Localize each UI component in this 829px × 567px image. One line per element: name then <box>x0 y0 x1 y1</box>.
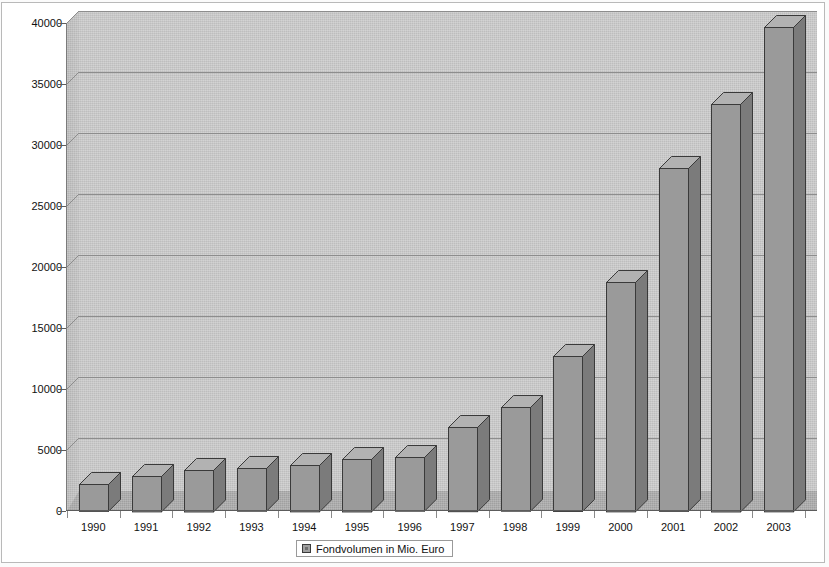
bar-2002[interactable] <box>711 92 754 511</box>
gridline <box>79 194 817 195</box>
y-axis-tick-mark <box>58 145 66 146</box>
legend-label: Fondvolumen in Mio. Euro <box>316 543 444 555</box>
bar-1995[interactable] <box>342 447 385 511</box>
x-axis-tick-label: 2000 <box>594 521 647 533</box>
x-axis-tick-mark <box>752 511 753 518</box>
x-axis-tick-label: 1997 <box>436 521 489 533</box>
x-axis-tick-mark <box>489 511 490 518</box>
x-axis-tick-label: 1991 <box>120 521 173 533</box>
gridline <box>79 11 817 12</box>
bar-1997[interactable] <box>448 415 491 511</box>
x-axis-tick-label: 1998 <box>489 521 542 533</box>
x-axis-tick-mark <box>700 511 701 518</box>
x-axis-tick-mark <box>67 511 68 518</box>
x-axis-tick-mark <box>594 511 595 518</box>
gridline <box>79 133 817 134</box>
y-axis-tick-mark <box>58 389 66 390</box>
gridline <box>79 255 817 256</box>
y-axis-tick-mark <box>58 450 66 451</box>
x-axis-tick-mark <box>278 511 279 518</box>
y-axis-line <box>66 23 67 511</box>
x-axis-tick-label: 2002 <box>700 521 753 533</box>
y-axis-tick-mark <box>58 267 66 268</box>
x-axis-tick-label: 1995 <box>331 521 384 533</box>
gridline <box>79 72 817 73</box>
y-axis-tick-mark <box>58 23 66 24</box>
x-axis-tick-mark <box>541 511 542 518</box>
x-axis-tick-mark <box>647 511 648 518</box>
bar-2003[interactable] <box>764 15 807 511</box>
bar-1999[interactable] <box>553 344 596 511</box>
x-axis-tick-mark <box>383 511 384 518</box>
bar-1996[interactable] <box>395 445 438 511</box>
bar-1994[interactable] <box>290 453 333 511</box>
x-axis-tick-label: 1999 <box>541 521 594 533</box>
bar-1993[interactable] <box>237 456 280 511</box>
y-axis-tick-mark <box>58 328 66 329</box>
x-axis-tick-label: 1996 <box>383 521 436 533</box>
x-axis-tick-label: 1992 <box>172 521 225 533</box>
legend-swatch-icon <box>302 544 311 553</box>
gridline <box>79 377 817 378</box>
x-axis-tick-label: 2003 <box>752 521 805 533</box>
y-axis-tick-mark <box>58 84 66 85</box>
x-axis-tick-label: 1990 <box>67 521 120 533</box>
y-axis-tick-mark <box>58 206 66 207</box>
x-axis-tick-label: 1993 <box>225 521 278 533</box>
plot-side-wall <box>67 11 79 511</box>
bar-1998[interactable] <box>501 395 544 511</box>
x-axis-tick-label: 1994 <box>278 521 331 533</box>
chart-root: 0500010000150002000025000300003500040000… <box>0 0 829 567</box>
x-axis-line <box>66 510 817 511</box>
y-axis: 0500010000150002000025000300003500040000 <box>0 0 62 567</box>
bar-2000[interactable] <box>606 270 649 511</box>
bar-1992[interactable] <box>184 458 227 511</box>
bar-1991[interactable] <box>132 464 175 511</box>
x-axis-tick-mark <box>805 511 806 518</box>
legend: Fondvolumen in Mio. Euro <box>296 540 453 557</box>
x-axis-tick-mark <box>331 511 332 518</box>
bar-2001[interactable] <box>659 156 702 511</box>
y-axis-tick-mark <box>58 511 66 512</box>
x-axis-tick-mark <box>172 511 173 518</box>
bar-1990[interactable] <box>79 472 122 511</box>
x-axis-tick-label: 2001 <box>647 521 700 533</box>
gridline <box>79 316 817 317</box>
x-axis-tick-mark <box>225 511 226 518</box>
plot-area <box>67 11 817 511</box>
x-axis-tick-mark <box>436 511 437 518</box>
texture-overlay <box>67 491 817 511</box>
plot-floor <box>67 491 817 511</box>
x-axis-tick-mark <box>120 511 121 518</box>
